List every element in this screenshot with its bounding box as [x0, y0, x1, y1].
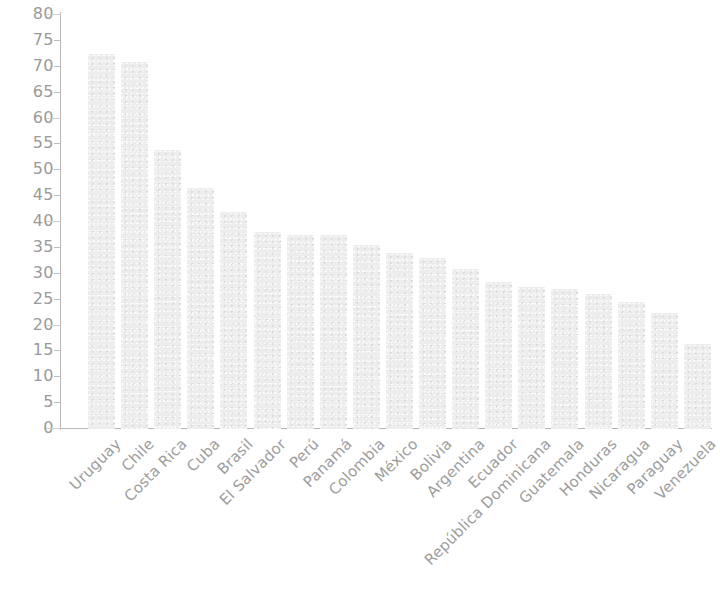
bar	[220, 212, 247, 429]
bar	[121, 62, 148, 429]
bar	[254, 232, 281, 429]
bar	[386, 253, 413, 429]
bar	[287, 235, 314, 429]
bar	[485, 282, 512, 429]
bar	[518, 287, 545, 429]
bar	[452, 269, 479, 429]
bar	[684, 344, 711, 429]
bar	[154, 150, 181, 429]
bar	[618, 302, 645, 429]
x-axis-label: Uruguay	[65, 435, 124, 494]
bar-series	[0, 0, 713, 429]
bar	[651, 313, 678, 429]
bar	[320, 235, 347, 429]
bar	[187, 188, 214, 429]
bar	[88, 54, 115, 429]
x-axis-category-labels: UruguayChileCosta RicaCubaBrasilEl Salva…	[0, 429, 713, 595]
bar	[551, 289, 578, 429]
bar	[419, 258, 446, 429]
bar	[585, 294, 612, 429]
bar	[353, 245, 380, 429]
